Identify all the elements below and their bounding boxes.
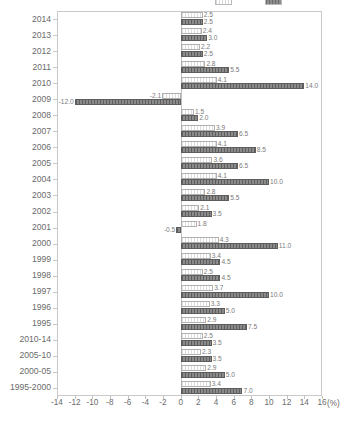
bar-light: 2.3 <box>181 349 201 355</box>
bar-dark: 5.0 <box>181 372 225 378</box>
bar-value-label: 7.0 <box>243 388 252 395</box>
bar-light: 1.8 <box>181 221 197 227</box>
bar-dark: 10.0 <box>181 292 269 298</box>
bar-light: 2.8 <box>181 189 206 195</box>
x-axis-tick-label: 14 <box>300 399 309 407</box>
x-axis-tick-label: -2 <box>159 399 166 407</box>
legend-item-dark <box>265 0 285 5</box>
bar-dark: 8.5 <box>181 147 256 153</box>
bar-row: 4.110.0 <box>57 171 322 187</box>
bar-row: 3.35.0 <box>57 300 322 316</box>
bar-light: 3.7 <box>181 285 214 291</box>
bar-light: 2.9 <box>181 365 207 371</box>
bar-value-label: 3.5 <box>213 211 222 218</box>
bar-row: 2.85.5 <box>57 59 322 75</box>
y-axis-label: 2005-10 <box>19 351 51 360</box>
x-axis-tick-label: -6 <box>124 399 131 407</box>
bar-dark: 7.0 <box>181 388 243 394</box>
bar-dark: 5.5 <box>181 67 230 73</box>
x-axis-tick-label: 6 <box>231 399 236 407</box>
y-axis-label: 1998 <box>32 271 51 280</box>
bar-value-label: 2.0 <box>199 115 208 122</box>
bar-value-label: 2.5 <box>204 51 213 58</box>
y-axis-label: 1999 <box>32 255 51 264</box>
legend-item-light <box>215 0 235 5</box>
bar-dark: 10.0 <box>181 179 269 185</box>
bar-value-label: -12.0 <box>59 99 74 106</box>
bar-dark: 3.5 <box>181 340 212 346</box>
bar-row: 2.43.0 <box>57 27 322 43</box>
bar-value-label: 3.0 <box>208 35 217 42</box>
bar-dark: 5.5 <box>181 195 230 201</box>
legend-swatch-light-icon <box>215 0 232 5</box>
y-axis-label: 1996 <box>32 303 51 312</box>
bar-row: 3.96.5 <box>57 123 322 139</box>
x-axis-labels: -14-12-10-8-6-4-20246810121416 <box>0 399 347 413</box>
bar-row: 4.114.0 <box>57 75 322 91</box>
y-axis-label: 2008 <box>32 111 51 120</box>
bar-chart: 2014201320122011201020092008200720062005… <box>0 0 347 433</box>
bar-dark: 6.5 <box>181 163 238 169</box>
bar-dark: 2.5 <box>181 51 203 57</box>
y-axis-label: 1997 <box>32 287 51 296</box>
y-axis-label: 2012 <box>32 47 51 56</box>
x-axis-tick-label: 12 <box>282 399 291 407</box>
bar-light: 2.5 <box>181 12 203 18</box>
bar-light: 2.2 <box>181 44 200 50</box>
bar-value-label: 6.5 <box>239 163 248 170</box>
bar-light: 1.5 <box>181 109 194 115</box>
x-axis-tick-label: -12 <box>69 399 81 407</box>
y-axis-label: 2001 <box>32 223 51 232</box>
x-axis-tick-label: 2 <box>196 399 201 407</box>
x-axis-tick-label: -10 <box>86 399 98 407</box>
y-axis-label: 2014 <box>32 15 51 24</box>
bar-light: 3.4 <box>181 381 211 387</box>
bar-row: 2.22.5 <box>57 43 322 59</box>
bar-row: 3.47.0 <box>57 380 322 396</box>
bar-dark: 6.5 <box>181 131 238 137</box>
bar-value-label: 1.8 <box>198 221 207 228</box>
bar-dark: 3.5 <box>181 211 212 217</box>
bar-dark: -12.0 <box>75 99 181 105</box>
bar-dark: 5.0 <box>181 308 225 314</box>
bar-light: 3.3 <box>181 301 210 307</box>
bar-row: 1.52.0 <box>57 107 322 123</box>
x-axis-tick-label: 16 <box>317 399 326 407</box>
bar-light: -2.1 <box>162 93 181 99</box>
bar-light: 3.4 <box>181 253 211 259</box>
y-axis-label: 2011 <box>33 63 51 72</box>
bar-value-label: 3.5 <box>213 340 222 347</box>
x-axis-tick-label: -8 <box>106 399 113 407</box>
bar-row: 3.66.5 <box>57 155 322 171</box>
y-axis-label: 2003 <box>32 191 51 200</box>
y-axis-label: 2007 <box>32 127 51 136</box>
y-axis-label: 2009 <box>32 95 51 104</box>
bar-value-label: 11.0 <box>279 243 291 250</box>
bar-light: 3.9 <box>181 125 215 131</box>
bar-dark: 11.0 <box>181 243 278 249</box>
y-axis-category-labels: 2014201320122011201020092008200720062005… <box>0 11 55 396</box>
y-axis-label: 2010 <box>32 79 51 88</box>
bar-value-label: 6.5 <box>239 131 248 138</box>
y-axis-label: 2006 <box>32 143 51 152</box>
y-axis-label: 2010-14 <box>19 335 51 344</box>
chart-legend <box>215 0 285 5</box>
y-axis-label: 2004 <box>32 175 51 184</box>
bar-dark: -0.5 <box>176 227 180 233</box>
bar-value-label: 4.5 <box>221 259 230 266</box>
x-axis-tick-label: -4 <box>142 399 149 407</box>
bar-value-label: 7.5 <box>248 324 257 331</box>
y-axis-label: 2013 <box>32 31 51 40</box>
bar-value-label: 14.0 <box>305 83 318 90</box>
y-axis-label: 2000-05 <box>19 367 51 376</box>
bar-value-label: 5.0 <box>226 308 235 315</box>
x-axis-tick-label: 8 <box>249 399 254 407</box>
bar-light: 2.5 <box>181 269 203 275</box>
bar-dark: 4.5 <box>181 259 221 265</box>
bar-value-label: 5.5 <box>230 195 239 202</box>
bar-value-label: 10.0 <box>270 292 283 299</box>
bar-light: 4.3 <box>181 237 219 243</box>
bar-row: 2.52.5 <box>57 11 322 27</box>
bar-value-label: -0.5 <box>164 227 175 234</box>
bar-value-label: 4.5 <box>221 275 230 282</box>
